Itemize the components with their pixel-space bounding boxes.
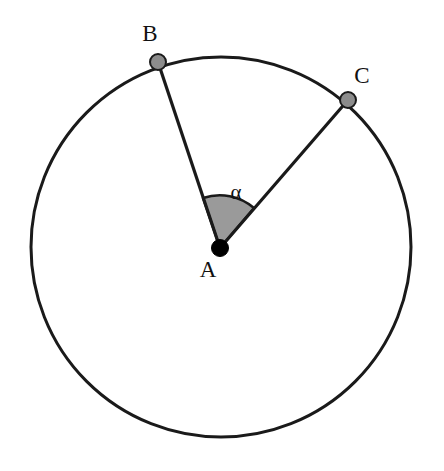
geometry-figure: B C A α [0, 0, 444, 471]
point-marker-C[interactable] [340, 92, 356, 108]
point-marker-A[interactable] [212, 240, 229, 257]
point-label-C: C [354, 64, 369, 87]
segment-AB [158, 62, 220, 248]
segment-AC [220, 100, 348, 248]
angle-label-alpha: α [230, 182, 241, 203]
geometry-canvas [0, 0, 444, 471]
point-marker-B[interactable] [150, 54, 166, 70]
point-label-B: B [142, 22, 157, 45]
point-label-A: A [200, 258, 217, 281]
